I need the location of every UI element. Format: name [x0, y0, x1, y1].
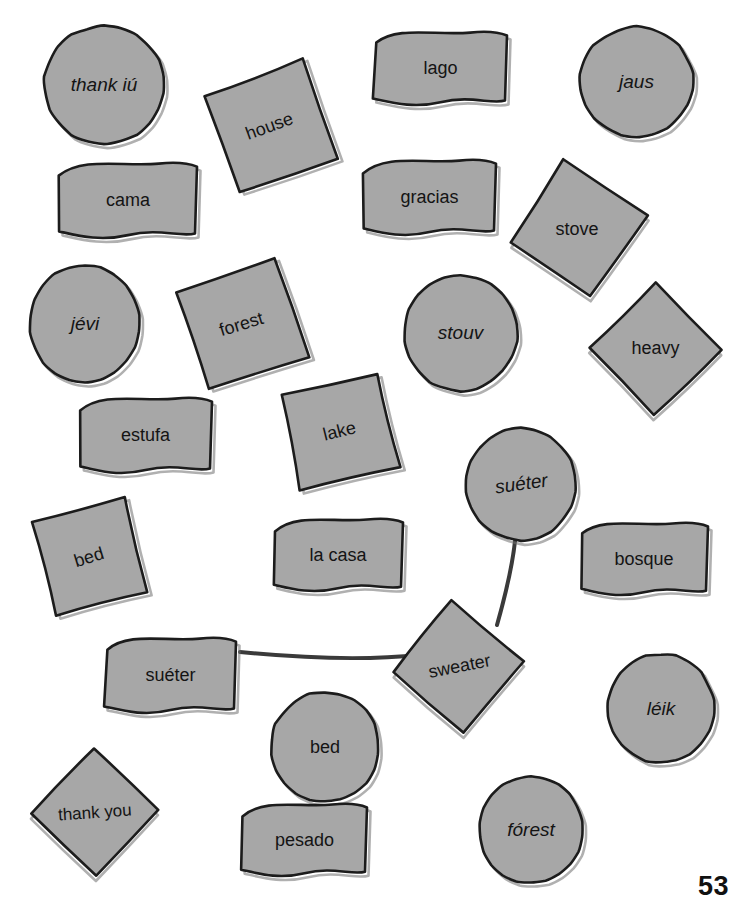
word-text: sweater	[427, 650, 493, 683]
word-card-label-wrap: sweater	[413, 620, 506, 713]
word-card-text: bosque	[579, 523, 709, 595]
word-text: léik	[647, 698, 676, 720]
word-text: la casa	[309, 545, 366, 566]
word-text: lago	[423, 58, 457, 79]
word-card-label-wrap: stouv	[404, 275, 517, 391]
word-card-text: estufa	[78, 398, 213, 473]
word-text: lake	[321, 417, 358, 445]
word-card-label-wrap: jévi	[30, 265, 140, 382]
word-card-text: thank iú	[44, 26, 164, 144]
word-text: suéter	[145, 665, 195, 686]
word-text: bed	[310, 737, 340, 758]
match-connector-line[interactable]	[497, 541, 515, 625]
word-text: thank iú	[71, 74, 138, 96]
word-text: stouv	[438, 322, 483, 344]
word-card-label-wrap: forest	[190, 272, 294, 376]
word-card-label-wrap: jaus	[580, 27, 693, 137]
word-card-label-wrap: stove	[528, 180, 626, 278]
word-card-label-wrap: lago	[373, 32, 508, 105]
word-card-text: thank you	[50, 768, 140, 858]
word-card-label-wrap: pesado	[241, 804, 368, 876]
match-connector-line[interactable]	[240, 652, 420, 658]
word-text: suéter	[493, 469, 548, 498]
word-card-text: pesado	[241, 804, 368, 876]
word-text: jaus	[619, 71, 654, 93]
word-card-label-wrap: cama	[58, 163, 198, 238]
word-card-text: gracias	[362, 160, 497, 235]
page-number: 53	[698, 871, 729, 902]
word-card-label-wrap: heavy	[609, 302, 702, 395]
word-card-text: fórest	[479, 776, 583, 883]
word-card-label-wrap: thank you	[50, 768, 140, 858]
word-text: fórest	[507, 819, 555, 841]
word-text: house	[243, 108, 296, 145]
word-text: heavy	[631, 338, 679, 359]
word-card-label-wrap: bed	[271, 692, 379, 802]
word-card-text: forest	[190, 272, 294, 376]
word-card-label-wrap: gracias	[362, 160, 497, 235]
word-text: pesado	[275, 830, 334, 851]
word-card-text: suéter	[104, 638, 237, 713]
word-card-label-wrap: léik	[608, 654, 714, 763]
word-card-text: heavy	[609, 302, 702, 395]
word-card-label-wrap: house	[217, 74, 322, 179]
word-card-text: sweater	[413, 620, 506, 713]
word-card-label-wrap: bosque	[579, 523, 709, 595]
word-text: gracias	[400, 187, 458, 208]
worksheet-page: thank iúhouselagojauscamagraciasstovejév…	[0, 0, 745, 920]
word-text: cama	[106, 190, 150, 211]
word-card-label-wrap: la casa	[272, 519, 404, 591]
word-text: stove	[555, 219, 598, 240]
word-card-text: lago	[373, 32, 508, 105]
word-text: jévi	[71, 313, 100, 335]
word-card-text: stove	[528, 180, 626, 278]
word-card-text: stouv	[404, 275, 517, 391]
word-card-text: jévi	[30, 265, 140, 382]
word-card-text: jaus	[580, 27, 693, 137]
word-card-label-wrap: fórest	[479, 776, 583, 883]
word-card-label-wrap: estufa	[78, 398, 213, 473]
word-card-text: cama	[58, 163, 198, 238]
word-text: thank you	[58, 800, 133, 825]
word-card-label-wrap: suéter	[466, 428, 576, 540]
word-card-text: house	[217, 74, 322, 179]
word-card-text: suéter	[466, 428, 576, 540]
word-card-label-wrap: thank iú	[44, 26, 164, 144]
word-card-text: la casa	[272, 519, 404, 591]
word-text: estufa	[121, 425, 170, 446]
word-text: bosque	[614, 549, 673, 570]
word-text: forest	[217, 307, 266, 340]
word-card-label-wrap: bed	[41, 509, 138, 606]
word-text: bed	[72, 543, 107, 572]
word-card-text: bed	[271, 692, 379, 802]
word-card-label-wrap: lake	[290, 381, 390, 481]
word-card-label-wrap: suéter	[104, 638, 237, 713]
word-card-text: lake	[290, 381, 390, 481]
word-card-text: bed	[41, 509, 138, 606]
word-card-text: léik	[608, 654, 714, 763]
